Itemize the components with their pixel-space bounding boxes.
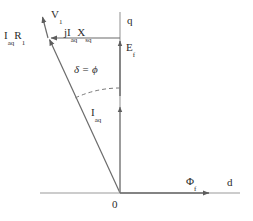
label-ef: Ef xyxy=(126,38,135,57)
label-v1-main: V xyxy=(51,8,59,20)
label-jiaq-xsq: jIaqXsq xyxy=(64,23,92,42)
label-jiaq-xsq-i-sub: aq xyxy=(71,36,78,44)
phasor-diagram-figure: IaqR1 V1 jIaqXsq q Ef δ = ϕ Iaq Φf d 0 xyxy=(0,0,253,221)
iaq-r1-vector xyxy=(43,17,49,38)
label-ef-main: E xyxy=(126,41,133,53)
label-iaq-r1-r: R xyxy=(14,29,21,41)
label-jiaq-xsq-x-sub: sq xyxy=(85,36,91,44)
label-iaq-r1-r-sub: 1 xyxy=(22,39,26,47)
phasor-diagram-canvas xyxy=(0,0,253,221)
label-v1-sub: 1 xyxy=(59,18,63,26)
label-d-axis-text: d xyxy=(227,176,233,188)
label-q-axis-text: q xyxy=(127,14,133,26)
label-iaq: Iaq xyxy=(91,103,101,122)
label-v1: V1 xyxy=(51,5,62,24)
label-origin-text: 0 xyxy=(112,198,118,210)
label-phi-f-main: Φ xyxy=(186,175,194,187)
label-ef-sub: f xyxy=(133,51,135,59)
angle-arc xyxy=(75,88,120,98)
label-q-axis: q xyxy=(127,11,133,27)
label-iaq-r1: IaqR1 xyxy=(4,26,25,45)
label-phi-f: Φf xyxy=(186,172,196,191)
label-jiaq-xsq-ji: jI xyxy=(64,26,71,38)
label-iaq-sub: aq xyxy=(95,116,102,124)
label-d-axis: d xyxy=(227,173,233,189)
label-origin: 0 xyxy=(112,195,118,211)
label-iaq-r1-i-sub: aq xyxy=(8,39,15,47)
label-delta-phi: δ = ϕ xyxy=(74,64,98,75)
